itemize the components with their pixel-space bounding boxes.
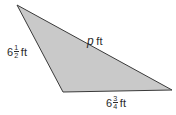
hypotenuse-unit: ft xyxy=(95,35,103,47)
mixed-number-bottom: 634 xyxy=(106,95,118,111)
triangle-figure: 612ft pft 634ft xyxy=(0,0,176,115)
label-hypotenuse: pft xyxy=(87,35,103,47)
label-left-side: 612ft xyxy=(7,44,27,60)
bottom-unit: ft xyxy=(118,97,126,109)
mixed-number-left: 612 xyxy=(7,44,19,60)
hypotenuse-variable: p xyxy=(87,34,95,48)
left-unit: ft xyxy=(19,46,27,58)
label-bottom-side: 634ft xyxy=(106,95,126,111)
triangle-shape xyxy=(17,5,172,92)
